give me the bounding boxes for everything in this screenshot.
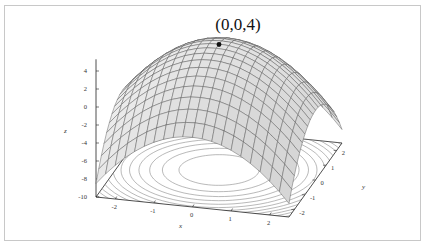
max-point-marker	[217, 42, 222, 47]
z-axis-label: z	[63, 127, 67, 135]
z-tick-label: -6	[82, 157, 88, 164]
y-tick-label: 1	[331, 164, 334, 171]
z-tick-label: 4	[84, 67, 88, 74]
y-axis-label: y	[361, 183, 366, 191]
surface-mesh	[96, 38, 342, 204]
x-tick-label: 2	[267, 219, 270, 226]
x-tick-label: -1	[150, 207, 155, 214]
y-tick-label: 2	[342, 149, 345, 156]
surface-plot: 420-2-4-6-8-10z-2-1012x-2-1012y	[0, 0, 426, 246]
x-tick	[231, 209, 233, 212]
x-tick-label: 1	[228, 215, 231, 222]
x-axis-label: x	[178, 222, 183, 230]
y-tick-label: 0	[321, 179, 324, 186]
front-axes: -2-1012x-2-1012y	[96, 143, 366, 230]
x-tick-label: -2	[112, 203, 117, 210]
z-tick-label: -2	[82, 121, 87, 128]
y-tick-label: -1	[310, 194, 315, 201]
z-tick-label: -10	[78, 193, 87, 200]
x-tick	[270, 213, 272, 216]
z-tick-label: 0	[84, 103, 87, 110]
surface-patch	[330, 111, 342, 130]
z-tick-label: -4	[82, 139, 88, 146]
z-axis: 420-2-4-6-8-10z	[63, 59, 99, 200]
y-tick-label: -2	[299, 209, 304, 216]
x-tick-label: 0	[190, 211, 193, 218]
z-tick-label: 2	[84, 85, 87, 92]
z-tick-label: -8	[82, 175, 87, 182]
